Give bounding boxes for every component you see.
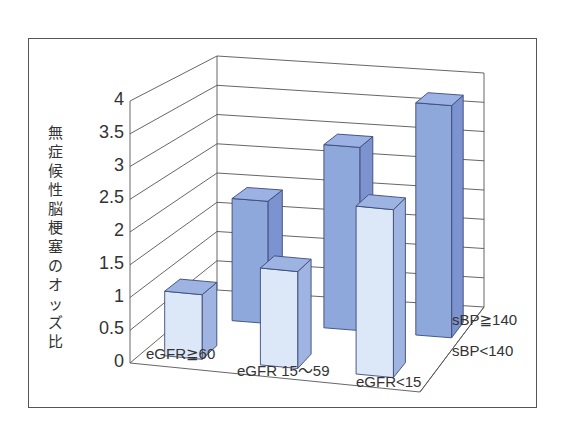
series-label-front: sBP<140: [452, 342, 513, 359]
category-label-1: eGFR 15〜59: [237, 359, 330, 380]
y-tick-label: 1.5: [84, 253, 124, 274]
category-label-0: eGFR≧60: [146, 345, 215, 363]
y-tick-label: 2.5: [84, 187, 124, 208]
y-axis-label: 無症候性脳梗塞のオッズ比: [46, 124, 64, 352]
y-tick-label: 0: [84, 351, 124, 372]
y-tick-label: 2: [84, 220, 124, 241]
bar-sBP≧140-eGFR<15: [416, 93, 463, 338]
bar-sBP<140-eGFR 15〜59: [260, 256, 311, 369]
category-label-2: eGFR<15: [356, 373, 421, 390]
y-tick-label: 3: [84, 155, 124, 176]
y-tick-label: 4: [84, 89, 124, 110]
y-tick-label: 1: [84, 286, 124, 307]
series-label-back: sBP≧140: [452, 311, 517, 329]
bar-sBP<140-eGFR<15: [356, 195, 405, 378]
y-tick-label: 0.5: [84, 318, 124, 339]
y-tick-label: 3.5: [84, 122, 124, 143]
